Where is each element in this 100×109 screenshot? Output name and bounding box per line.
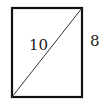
rectangle-diagram <box>0 0 100 109</box>
diagonal-length-label: 10 <box>29 38 48 53</box>
side-length-label: 8 <box>90 34 100 49</box>
